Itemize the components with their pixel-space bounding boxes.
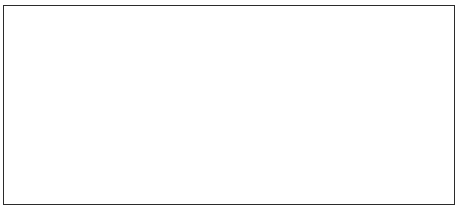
chart-outer-border (3, 5, 455, 205)
chart-container: 02004006008001,0001,2001,4001,6001,80019… (0, 0, 461, 212)
